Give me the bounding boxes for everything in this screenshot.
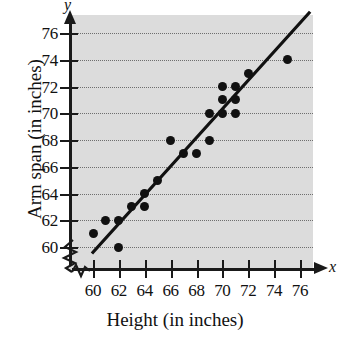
gridline [70,194,313,195]
data-point [244,69,253,78]
y-axis-tick [60,220,78,222]
y-axis-tick [60,113,78,115]
x-axis-tick [119,260,121,278]
gridline [70,167,313,168]
gridline [70,60,313,61]
y-axis-title: Arm span (in inches) [24,14,46,264]
axis-break-icon [52,238,98,284]
data-point [218,109,227,118]
data-point [205,109,214,118]
y-axis-line [69,22,72,265]
y-axis-variable-letter: y [64,0,71,14]
gridline [70,33,313,34]
data-point [283,55,292,64]
gridline [70,140,313,141]
x-axis-title: Height (in inches) [55,309,295,331]
plot-area [70,15,313,270]
y-axis-tick [60,33,78,35]
x-axis-variable-letter: x [329,258,336,276]
y-axis-tick [60,167,78,169]
gridline [70,87,313,88]
y-axis-tick [60,194,78,196]
data-point [218,82,227,91]
x-axis-arrow-icon [314,262,328,274]
gridline [70,247,313,248]
data-point [140,202,149,211]
data-point [114,243,123,252]
y-axis-tick [60,60,78,62]
data-point [205,136,214,145]
y-axis-tick [60,87,78,89]
x-axis-ticklabel: 76 [285,282,315,299]
data-point [179,149,188,158]
x-axis-tick [248,260,250,278]
x-axis-tick [222,260,224,278]
data-point [166,136,175,145]
x-axis-line [72,268,317,271]
y-axis-tick [60,140,78,142]
scatter-plot-figure: 606264666870727476 606264666870727476 x … [0,0,343,347]
data-point [127,202,136,211]
x-axis-tick [300,260,302,278]
data-point [114,216,123,225]
data-point [153,176,162,185]
data-point [231,109,240,118]
x-axis-tick [274,260,276,278]
x-axis-tick [145,260,147,278]
y-axis-tick [60,247,78,249]
x-axis-tick [93,260,95,278]
data-point [218,95,227,104]
data-point [231,95,240,104]
data-point [140,189,149,198]
gridline [70,113,313,114]
x-axis-tick [171,260,173,278]
data-point [192,149,201,158]
data-point [101,216,110,225]
x-axis-tick [197,260,199,278]
data-point [89,229,98,238]
data-point [231,82,240,91]
